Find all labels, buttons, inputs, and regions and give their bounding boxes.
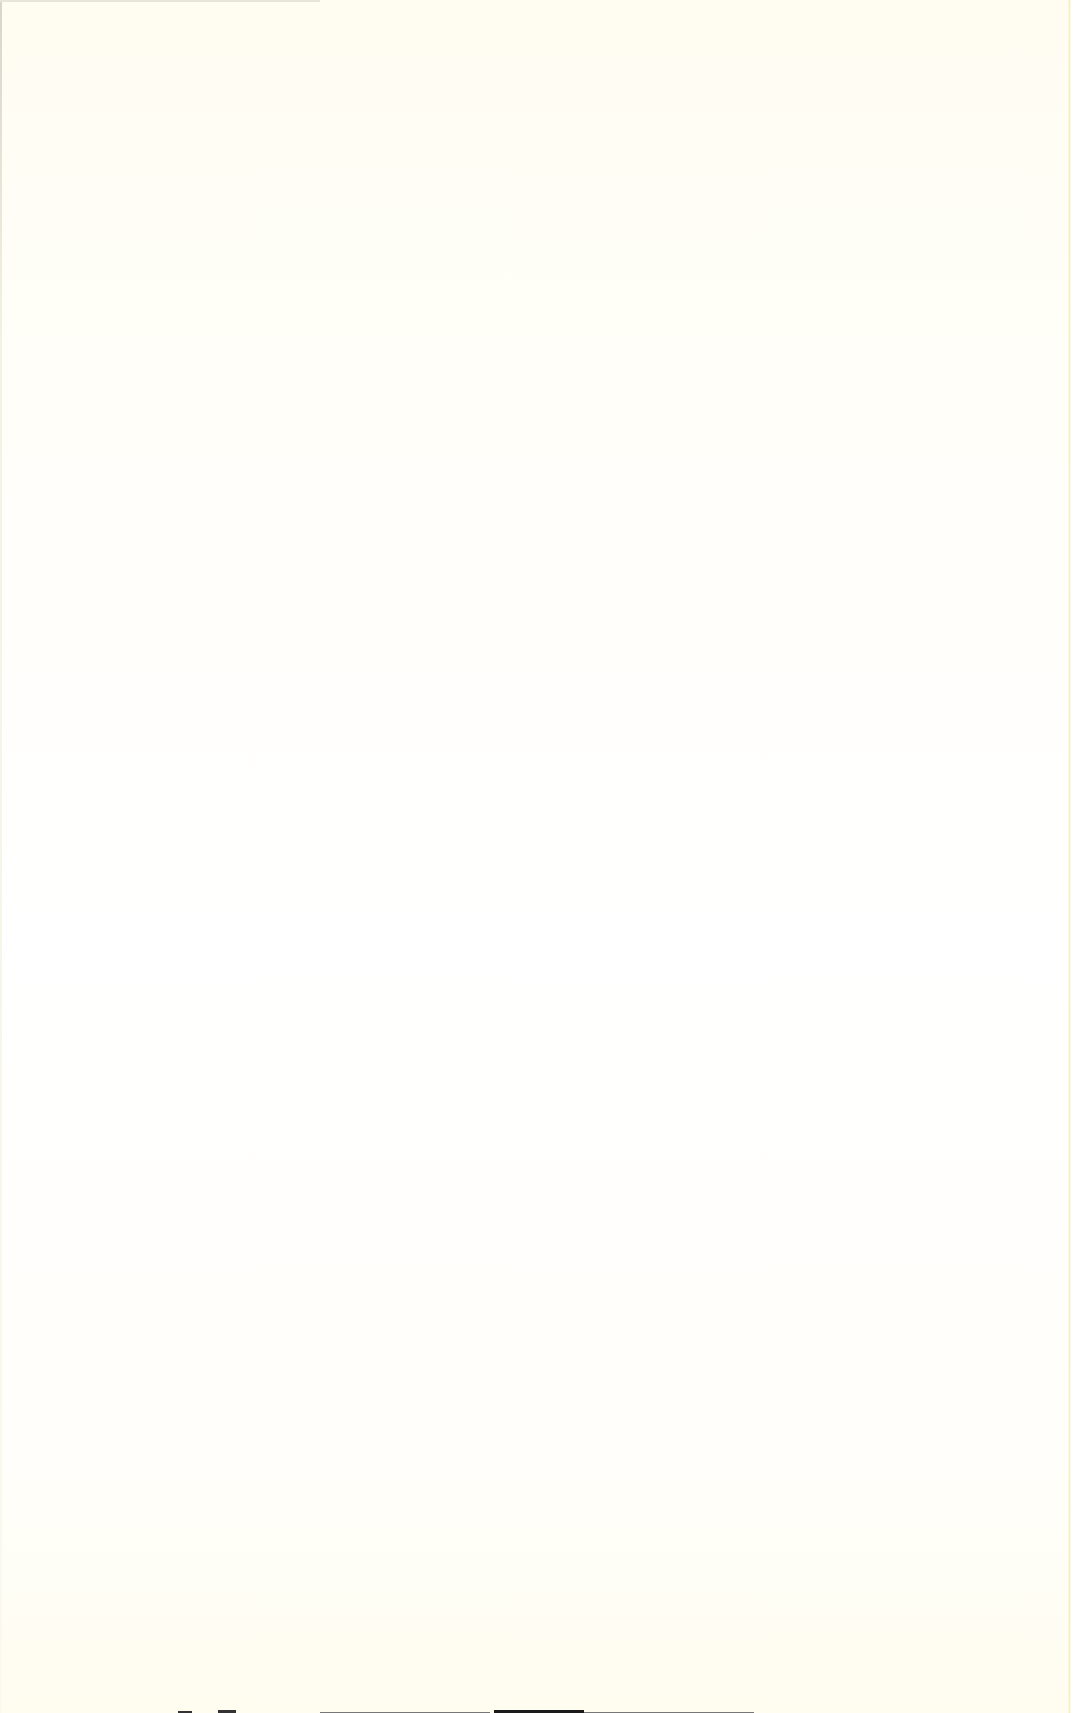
bottom-edge-scan-marks <box>0 1707 1085 1713</box>
page-top-edge <box>0 0 320 2</box>
blank-document-page <box>0 0 1085 1713</box>
page-right-margin <box>1071 0 1085 1713</box>
page-left-edge <box>0 0 2 1713</box>
